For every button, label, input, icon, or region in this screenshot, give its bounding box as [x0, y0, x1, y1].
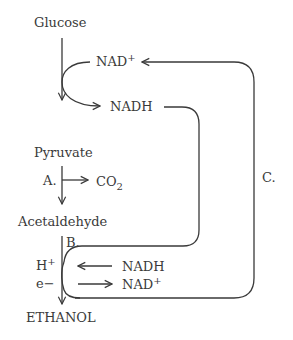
- nad-top-label: NAD+: [96, 52, 136, 69]
- nad-to-nadh-curve: [62, 62, 100, 106]
- b-curve: [62, 262, 80, 298]
- step-c-label: C.: [262, 170, 276, 185]
- fermentation-diagram: Glucose NAD+ NADH C. Pyruvate A. CO2 Ace…: [0, 0, 293, 340]
- nadh-transfer-loop: [64, 107, 199, 262]
- step-b-label: B.: [66, 235, 80, 250]
- h-plus-label: H+: [36, 256, 56, 273]
- nadh-bottom-label: NADH: [122, 259, 165, 274]
- pyruvate-label: Pyruvate: [34, 145, 93, 160]
- step-a-label: A.: [42, 173, 57, 188]
- ethanol-label: ETHANOL: [26, 310, 96, 325]
- glucose-label: Glucose: [34, 15, 87, 30]
- nadh-top-label: NADH: [110, 99, 153, 114]
- acetaldehyde-label: Acetaldehyde: [17, 214, 108, 229]
- e-minus-label: e−: [36, 276, 55, 291]
- co2-label: CO2: [96, 174, 123, 192]
- nad-bottom-label: NAD+: [122, 275, 162, 292]
